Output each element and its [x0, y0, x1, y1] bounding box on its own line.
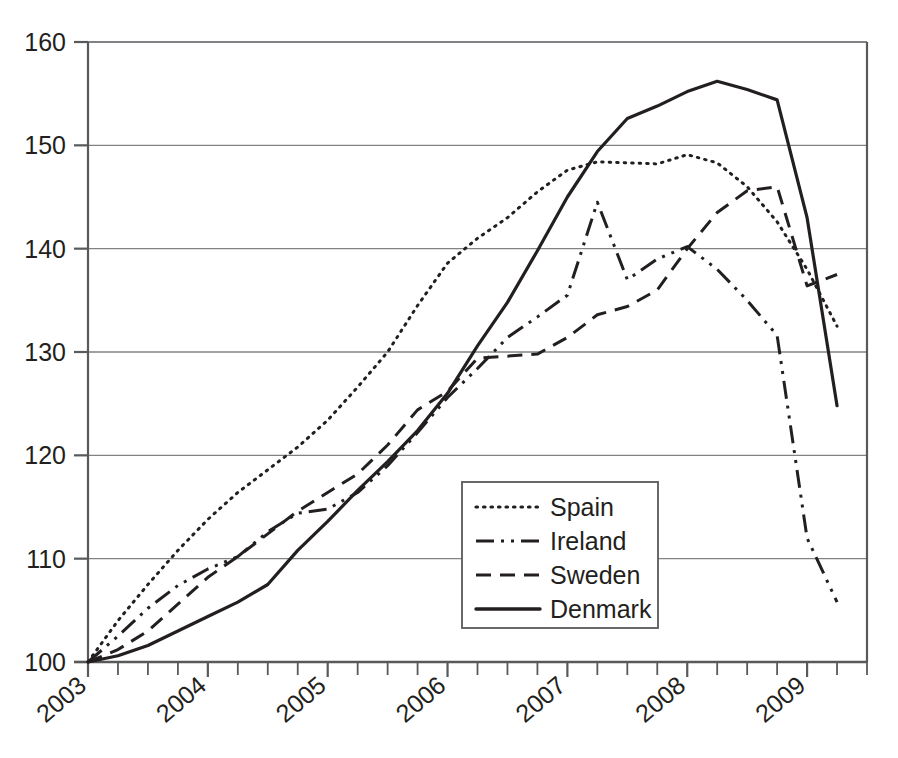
y-tick-label-160: 160 [24, 28, 66, 56]
y-tick-label-100: 100 [24, 648, 66, 676]
y-tick-label-110: 110 [26, 545, 66, 573]
y-tick-label-120: 120 [24, 441, 66, 469]
legend-label-spain: Spain [550, 493, 614, 521]
legend-label-sweden: Sweden [550, 561, 640, 589]
y-tick-label-140: 140 [24, 235, 66, 263]
line-chart: 100110120130140150160 200320042005200620… [0, 0, 898, 758]
legend-label-denmark: Denmark [550, 595, 652, 623]
y-tick-label-150: 150 [24, 131, 66, 159]
chart-legend: SpainIrelandSwedenDenmark [462, 482, 658, 628]
chart-background [0, 0, 898, 758]
y-tick-label-130: 130 [24, 338, 66, 366]
legend-label-ireland: Ireland [550, 527, 626, 555]
chart-container: 100110120130140150160 200320042005200620… [0, 0, 898, 758]
